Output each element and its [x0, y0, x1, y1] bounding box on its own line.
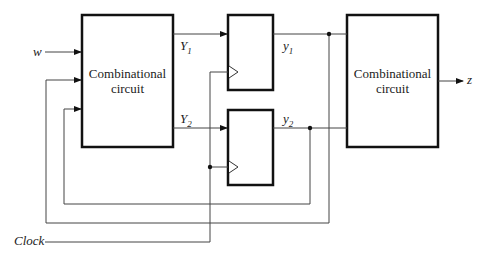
left-combinational-label: Combinational circuit	[82, 66, 173, 96]
w-label: w	[33, 44, 42, 60]
Y1-label: Y1	[180, 38, 192, 56]
left-comb-line1: Combinational	[82, 66, 173, 81]
Y2-sub: 2	[187, 119, 192, 129]
left-comb-line2: circuit	[82, 81, 173, 96]
flip-flop-2-box	[228, 110, 273, 185]
y2-sub: 2	[289, 119, 294, 129]
circuit-wires	[0, 0, 496, 260]
y2-junction-dot	[308, 126, 312, 130]
right-combinational-label: Combinational circuit	[347, 66, 438, 96]
y1-label: y1	[283, 38, 293, 56]
clock-label: Clock	[14, 233, 44, 249]
Y1-sub: 1	[187, 46, 192, 56]
y1-sub: 1	[289, 46, 294, 56]
flip-flop-1-box	[228, 15, 273, 90]
clock-junction-dot	[208, 165, 212, 169]
y2-label: y2	[283, 111, 293, 129]
y1-junction-dot	[327, 32, 331, 36]
right-comb-line1: Combinational	[347, 66, 438, 81]
right-comb-line2: circuit	[347, 81, 438, 96]
Y2-label: Y2	[180, 111, 192, 129]
sequential-circuit-diagram: Combinational circuit Combinational circ…	[0, 0, 496, 260]
z-label: z	[467, 72, 472, 88]
